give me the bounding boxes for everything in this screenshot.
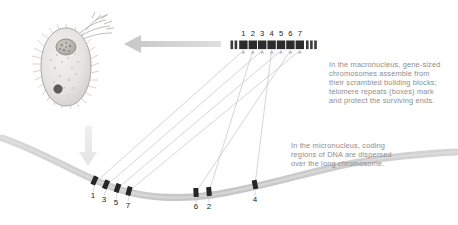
macronucleus-chromosome — [231, 41, 317, 50]
arrow-to-chromosome-icon — [79, 126, 97, 166]
micro-number-4: 4 — [250, 196, 260, 204]
scramble-connectors — [96, 51, 300, 193]
telomere-box — [310, 41, 313, 50]
macro-segment-3 — [258, 41, 266, 50]
macro-number-7: 7 — [295, 30, 304, 38]
macro-number-5: 5 — [277, 30, 286, 38]
macro-segment-1 — [239, 41, 247, 50]
macro-segment-6 — [286, 41, 294, 50]
ciliate-cell — [32, 12, 114, 109]
macro-segment-7 — [296, 41, 304, 50]
telomere-box — [231, 41, 234, 50]
macro-number-4: 4 — [267, 30, 276, 38]
macro-segment-4 — [267, 41, 275, 50]
arrow-to-cell-icon — [124, 35, 221, 53]
micro-number-6: 6 — [191, 203, 201, 211]
macro-number-6: 6 — [286, 30, 295, 38]
micro-block-6 — [193, 188, 198, 197]
macro-number-1: 1 — [239, 30, 248, 38]
diagram-artwork — [0, 0, 458, 225]
cell-micronucleus — [54, 85, 62, 93]
micro-number-3: 3 — [99, 196, 109, 204]
micro-number-2: 2 — [204, 203, 214, 211]
macronucleus-caption: In the macronucleus, gene-sized chromoso… — [329, 60, 457, 105]
macro-number-3: 3 — [258, 30, 267, 38]
macro-segment-2 — [249, 41, 257, 50]
telomere-box — [306, 41, 309, 50]
micro-number-1: 1 — [88, 192, 98, 200]
micro-number-7: 7 — [123, 202, 133, 210]
cell-macronucleus — [56, 39, 76, 55]
telomere-box — [235, 41, 238, 50]
micronucleus-caption: In the micronucleus, coding regions of D… — [291, 141, 415, 168]
oral-cilia-tuft — [80, 12, 114, 39]
micro-block-2 — [206, 187, 212, 196]
figure-canvas: 1 2 3 4 5 6 7 1 3 5 7 6 2 4 In the macro… — [0, 0, 458, 225]
macro-number-2: 2 — [248, 30, 257, 38]
telomere-box — [314, 41, 317, 50]
micro-number-5: 5 — [111, 199, 121, 207]
macro-segment-5 — [277, 41, 285, 50]
connector-arrowheads — [241, 50, 301, 53]
